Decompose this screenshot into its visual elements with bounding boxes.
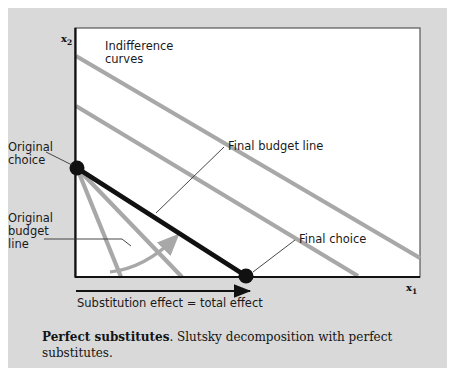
final-budget-line-label: Final budget line [228, 140, 323, 153]
figure-page: x2 x1 Indifference curves Original choic… [0, 0, 455, 384]
slutsky-perfect-substitutes-diagram [0, 0, 455, 384]
caption-title: Perfect substitutes [42, 330, 169, 344]
y-axis-label: x2 [61, 33, 72, 47]
indifference-curves-label: Indifference curves [105, 40, 173, 66]
original-choice-label: Original choice [8, 141, 53, 167]
substitution-effect-label: Substitution effect = total effect [77, 297, 263, 310]
figure-caption: Perfect substitutes. Slutsky decompositi… [42, 329, 432, 361]
original-choice-point [70, 161, 85, 176]
original-budget-line-label: Original budget line [8, 212, 53, 251]
x-axis-label: x1 [406, 282, 417, 296]
final-choice-point [239, 269, 254, 284]
caption-separator: . [169, 330, 177, 344]
final-choice-label: Final choice [299, 233, 366, 246]
